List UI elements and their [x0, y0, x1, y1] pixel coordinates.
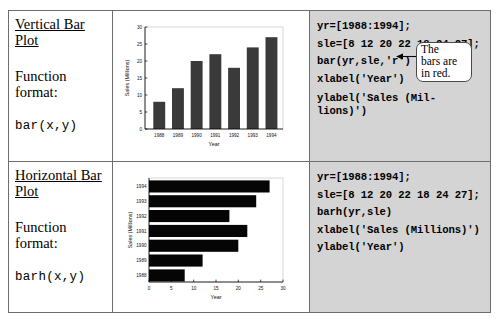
- table-row: Vertical Bar Plot Function format: bar(x…: [9, 11, 490, 162]
- code-line: ylabel('Sales (Mil-: [317, 92, 486, 105]
- vertical-code-cell: yr=[1988:1994]; sle=[8 12 20 22 18 24 27…: [310, 11, 490, 161]
- svg-text:1993: 1993: [136, 199, 147, 204]
- vertical-format-line1: Function: [15, 68, 67, 84]
- svg-text:30: 30: [137, 25, 143, 30]
- vertical-xlabel: Year: [209, 141, 220, 147]
- code-line: sle=[8 12 20 22 18 24 27];: [317, 187, 486, 205]
- horizontal-function-signature: barh(x,y): [15, 270, 107, 284]
- svg-text:15: 15: [213, 286, 219, 291]
- svg-text:0: 0: [148, 286, 151, 291]
- horizontal-bar-chart-cell: 1994 1993 1992 1991 1990 1989: [113, 162, 310, 312]
- horizontal-plot-heading-line1: Horizontal Bar: [15, 167, 102, 183]
- svg-text:15: 15: [137, 76, 143, 81]
- vertical-format-label: Function format:: [15, 68, 107, 100]
- horizontal-format-label: Function format:: [15, 219, 107, 251]
- svg-text:10: 10: [137, 93, 143, 98]
- svg-text:1988: 1988: [154, 133, 165, 138]
- callout-arrow-icon: [396, 52, 417, 61]
- horizontal-format-line2: format:: [15, 235, 58, 251]
- code-line: yr=[1988:1994];: [317, 169, 486, 187]
- horizontal-plot-heading-line2: Plot: [15, 183, 38, 199]
- svg-text:10: 10: [191, 286, 197, 291]
- page-root: Vertical Bar Plot Function format: bar(x…: [0, 0, 499, 330]
- svg-text:25: 25: [258, 286, 264, 291]
- horizontal-code-cell: yr=[1988:1994]; sle=[8 12 20 22 18 24 27…: [310, 162, 490, 312]
- vertical-description-cell: Vertical Bar Plot Function format: bar(x…: [9, 11, 113, 161]
- svg-text:1990: 1990: [136, 243, 147, 248]
- svg-text:5: 5: [170, 286, 173, 291]
- vertical-bar-chart-cell: 0 5 10 15 20 25: [113, 11, 310, 161]
- red-bars-callout: The bars are in red.: [416, 42, 472, 82]
- svg-text:25: 25: [137, 42, 143, 47]
- svg-text:1990: 1990: [191, 133, 202, 138]
- svg-text:1992: 1992: [136, 214, 147, 219]
- horizontal-description-cell: Horizontal Bar Plot Function format: bar…: [9, 162, 113, 312]
- vertical-bar-chart: 0 5 10 15 20 25: [113, 11, 309, 161]
- horizontal-format-line1: Function: [15, 219, 67, 235]
- vertical-function-signature: bar(x,y): [15, 119, 107, 133]
- code-line: yr=[1988:1994];: [317, 18, 486, 36]
- horizontal-plot-heading: Horizontal Bar Plot: [15, 168, 107, 199]
- code-line: barh(yr,sle): [317, 204, 486, 222]
- callout-line-2: bars are: [421, 56, 467, 68]
- table-row: Horizontal Bar Plot Function format: bar…: [9, 162, 490, 312]
- svg-text:1991: 1991: [136, 229, 147, 234]
- callout-line-3: in red.: [421, 68, 467, 80]
- bar-plot-reference-table: Vertical Bar Plot Function format: bar(x…: [8, 10, 491, 313]
- vertical-plot-heading: Vertical Bar Plot: [15, 17, 107, 48]
- code-line: ylabel('Year'): [317, 239, 486, 257]
- vertical-y-axis: 0 5 10 15 20 25: [124, 25, 147, 132]
- horizontal-xlabel: Year: [211, 294, 222, 300]
- vertical-plot-heading-line1: Vertical Bar: [15, 16, 85, 32]
- svg-text:1992: 1992: [229, 133, 240, 138]
- code-line: lions)'): [317, 105, 486, 118]
- vertical-format-line2: format:: [15, 84, 58, 100]
- vertical-ylabel: Sales (Millions): [124, 60, 130, 97]
- svg-text:1991: 1991: [210, 133, 221, 138]
- svg-text:0: 0: [139, 127, 142, 132]
- svg-text:1994: 1994: [266, 133, 277, 138]
- code-line: xlabel('Sales (Millions)'): [317, 222, 486, 240]
- svg-text:1989: 1989: [136, 258, 147, 263]
- svg-text:1993: 1993: [248, 133, 259, 138]
- svg-text:1994: 1994: [136, 184, 147, 189]
- horizontal-bar-chart: 1994 1993 1992 1991 1990 1989: [113, 162, 309, 312]
- horizontal-x-axis: 0 5 10 15 20 25: [148, 280, 286, 300]
- svg-text:1988: 1988: [136, 273, 147, 278]
- horizontal-ylabel: Sales (Millions): [127, 212, 133, 249]
- svg-text:20: 20: [236, 286, 242, 291]
- horizontal-y-axis: 1994 1993 1992 1991 1990 1989: [127, 178, 151, 282]
- svg-text:1989: 1989: [173, 133, 184, 138]
- svg-text:20: 20: [137, 59, 143, 64]
- svg-text:5: 5: [139, 110, 142, 115]
- svg-text:30: 30: [280, 286, 286, 291]
- vertical-x-axis: 1988 1989 1990 1991 1992 1993 1994 Year: [145, 129, 283, 147]
- vertical-plot-heading-line2: Plot: [15, 32, 38, 48]
